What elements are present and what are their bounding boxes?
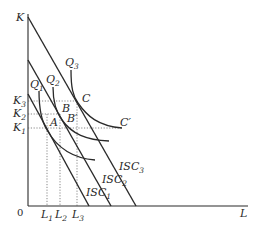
point-c-prime-label: C′ — [120, 116, 131, 129]
isocost-isoquant-diagram: K L 0 Q1 Q2 Q3 C B B′ A C′ K3 K2 K1 L1 L… — [0, 0, 263, 233]
isc3-label: ISC3 — [118, 160, 144, 175]
k-axis-label: K — [15, 11, 25, 24]
point-c-label: C — [82, 92, 91, 105]
isc2-label: ISC2 — [101, 173, 127, 188]
l3-label: L3 — [71, 208, 84, 223]
k2-label: K2 — [12, 107, 26, 122]
k1-label: K1 — [12, 121, 26, 136]
origin-label: 0 — [17, 207, 23, 218]
q1-label: Q1 — [30, 78, 44, 93]
q2-label: Q2 — [46, 73, 60, 88]
isocost-line-2 — [28, 60, 111, 206]
point-a-label: A — [49, 116, 58, 129]
isc1-label: ISC1 — [85, 186, 111, 201]
l1-label: L1 — [40, 208, 53, 223]
q3-label: Q3 — [65, 56, 79, 71]
l2-label: L2 — [54, 208, 67, 223]
l-axis-label: L — [239, 207, 247, 220]
point-b-prime-label: B′ — [66, 112, 78, 125]
isoquant-q3 — [71, 70, 122, 128]
